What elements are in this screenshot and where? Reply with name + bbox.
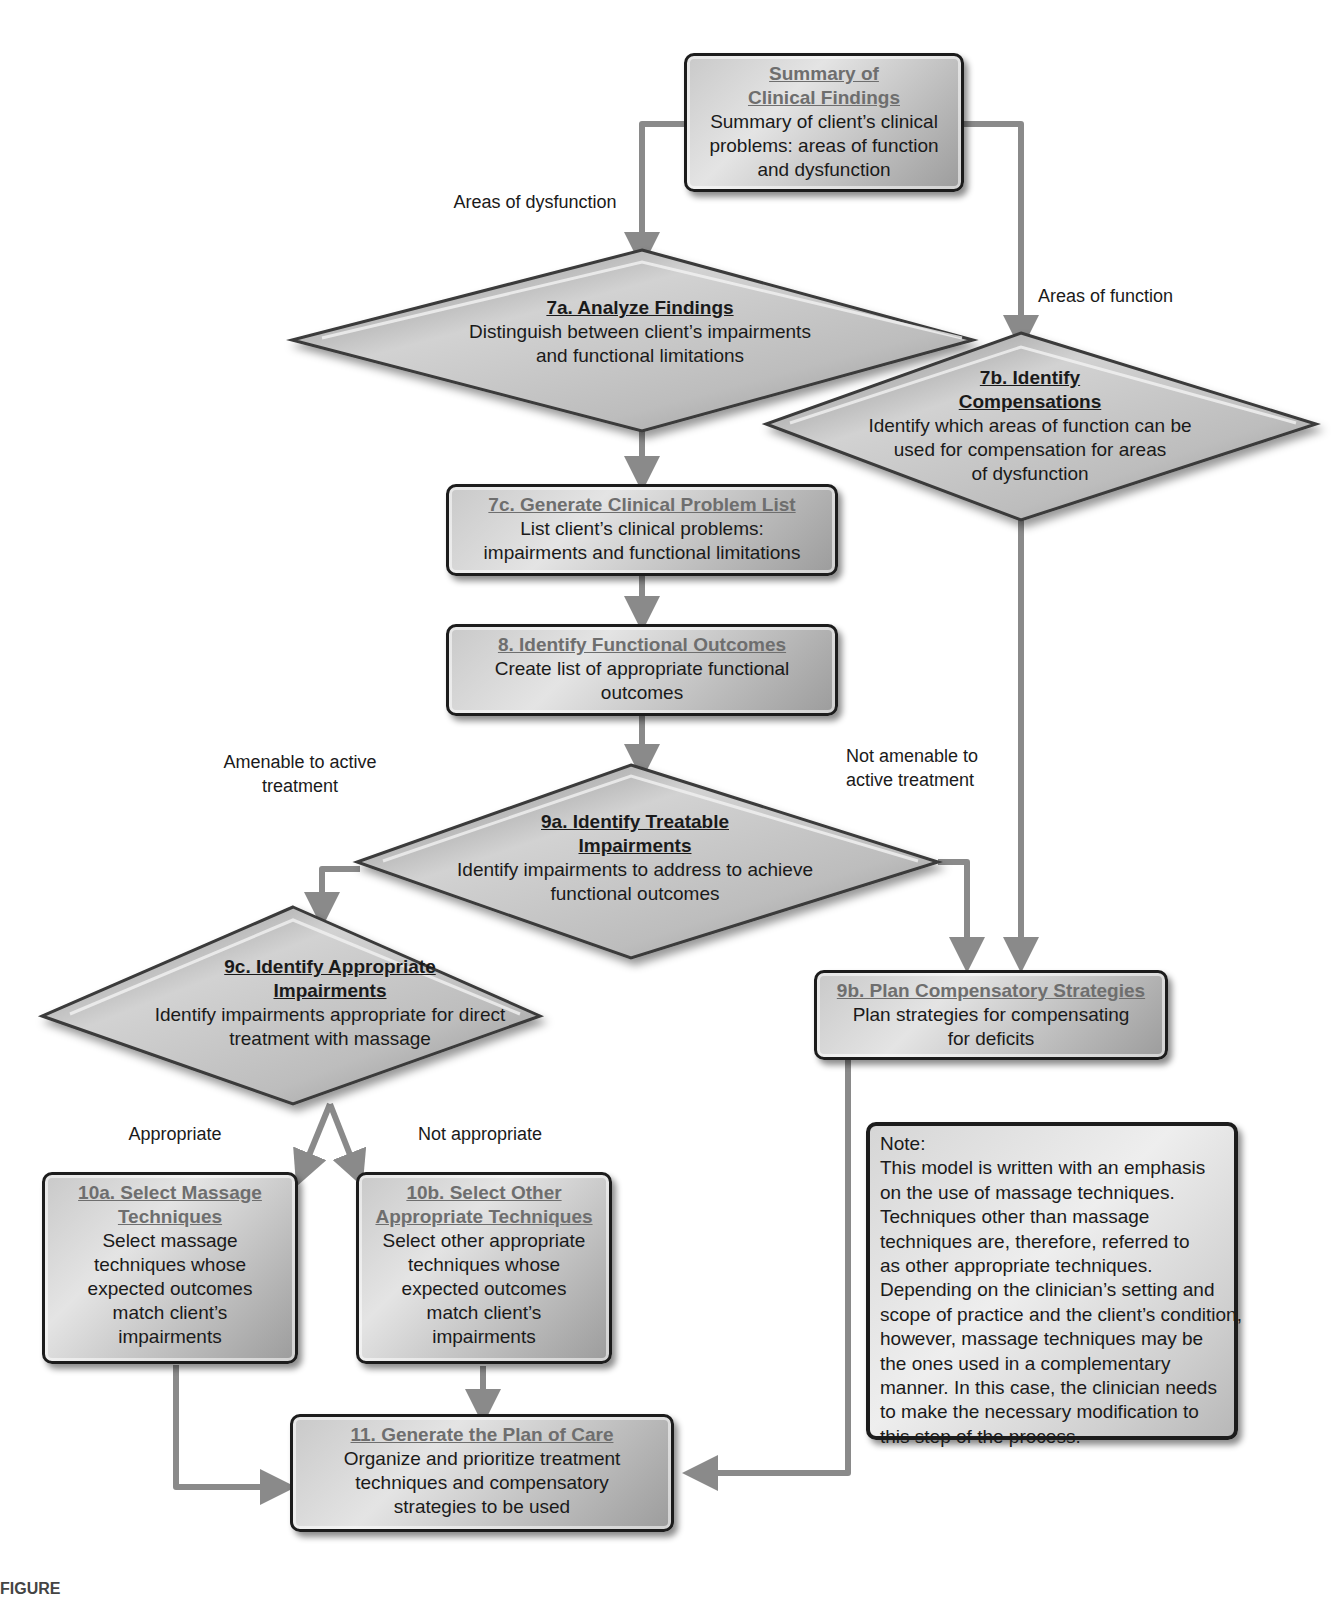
desc-line: Plan strategies for compensating [825, 1003, 1157, 1027]
note-line: scope of practice and the client’s condi… [880, 1303, 1224, 1327]
desc-line: impairments [53, 1325, 287, 1349]
node-7b-identify-compensations[interactable]: 7b. Identify Compensations Identify whic… [830, 366, 1230, 486]
connector-9a-to-9c [322, 869, 360, 910]
note-line: however, massage techniques may be [880, 1327, 1224, 1351]
desc-line: match client’s [53, 1301, 287, 1325]
connector-9c-to-10a [303, 1104, 330, 1170]
node-7a-analyze-findings[interactable]: 7a. Analyze Findings Distinguish between… [420, 296, 860, 368]
node-9c-identify-appropriate-impairments[interactable]: 9c. Identify Appropriate Impairments Ide… [110, 955, 550, 1051]
label-line: Not amenable to [846, 744, 1002, 768]
node-description: Identify which areas of function can be … [830, 414, 1230, 486]
note-line: Depending on the clinician’s setting and [880, 1278, 1224, 1302]
title-line: Clinical Findings [695, 86, 953, 110]
node-10a-select-massage-techniques[interactable]: 10a. Select Massage Techniques Select ma… [42, 1172, 298, 1364]
node-description: Create list of appropriate functional ou… [457, 657, 827, 705]
desc-line: techniques whose [53, 1253, 287, 1277]
edge-label-not-amenable-to-active-treatment: Not amenable to active treatment [846, 744, 1002, 792]
title-line: Appropriate Techniques [367, 1205, 601, 1229]
node-title: Summary of Clinical Findings [695, 62, 953, 110]
desc-line: techniques whose [367, 1253, 601, 1277]
node-description: Select massage techniques whose expected… [53, 1229, 287, 1349]
title-line: 9a. Identify Treatable [420, 810, 850, 834]
node-9b-plan-compensatory-strategies[interactable]: 9b. Plan Compensatory Strategies Plan st… [814, 970, 1168, 1060]
note-line: manner. In this case, the clinician need… [880, 1376, 1224, 1400]
desc-line: expected outcomes [367, 1277, 601, 1301]
node-title: 10b. Select Other Appropriate Techniques [367, 1181, 601, 1229]
note-line: Techniques other than massage [880, 1205, 1224, 1229]
note-line: This model is written with an emphasis [880, 1156, 1224, 1180]
node-title: 8. Identify Functional Outcomes [457, 633, 827, 657]
desc-line: Organize and prioritize treatment [301, 1447, 663, 1471]
desc-line: outcomes [457, 681, 827, 705]
title-line: Techniques [53, 1205, 287, 1229]
edge-label-appropriate: Appropriate [110, 1122, 240, 1146]
node-description: Summary of client’s clinical problems: a… [695, 110, 953, 182]
note-line: the ones used in a complementary [880, 1352, 1224, 1376]
node-description: Organize and prioritize treatment techni… [301, 1447, 663, 1519]
connector-9a-to-9b [938, 862, 967, 955]
desc-line: List client’s clinical problems: [457, 517, 827, 541]
desc-line: used for compensation for areas [830, 438, 1230, 462]
desc-line: Select other appropriate [367, 1229, 601, 1253]
node-description: Identify impairments to address to achie… [420, 858, 850, 906]
node-title: 11. Generate the Plan of Care [301, 1423, 663, 1447]
connector-10a-to-11 [176, 1365, 278, 1487]
edge-label-areas-of-dysfunction: Areas of dysfunction [440, 190, 630, 214]
desc-line: problems: areas of function [695, 134, 953, 158]
desc-line: techniques and compensatory [301, 1471, 663, 1495]
desc-line: Select massage [53, 1229, 287, 1253]
desc-line: strategies to be used [301, 1495, 663, 1519]
desc-line: impairments [367, 1325, 601, 1349]
connector-9c-to-10b [330, 1104, 356, 1170]
desc-line: Distinguish between client’s impairments [420, 320, 860, 344]
note-line: as other appropriate techniques. [880, 1254, 1224, 1278]
node-title: 10a. Select Massage Techniques [53, 1181, 287, 1229]
label-line: Amenable to active [200, 750, 400, 774]
title-line: Impairments [110, 979, 550, 1003]
node-9a-identify-treatable-impairments[interactable]: 9a. Identify Treatable Impairments Ident… [420, 810, 850, 906]
title-line: 10a. Select Massage [53, 1181, 287, 1205]
node-title: 9b. Plan Compensatory Strategies [825, 979, 1157, 1003]
edge-label-areas-of-function: Areas of function [1038, 284, 1198, 308]
node-title: 7b. Identify Compensations [830, 366, 1230, 414]
edge-label-not-appropriate: Not appropriate [400, 1122, 560, 1146]
desc-line: for deficits [825, 1027, 1157, 1051]
edge-label-amenable-to-active-treatment: Amenable to active treatment [200, 750, 400, 798]
note-line: on the use of massage techniques. [880, 1181, 1224, 1205]
node-description: Identify impairments appropriate for dir… [110, 1003, 550, 1051]
desc-line: Identify impairments appropriate for dir… [110, 1003, 550, 1027]
note-heading: Note: [880, 1132, 1224, 1156]
node-summary-of-clinical-findings[interactable]: Summary of Clinical Findings Summary of … [684, 53, 964, 192]
desc-line: treatment with massage [110, 1027, 550, 1051]
note-line: to make the necessary modification to [880, 1400, 1224, 1424]
title-line: Impairments [420, 834, 850, 858]
node-description: Plan strategies for compensating for def… [825, 1003, 1157, 1051]
desc-line: and dysfunction [695, 158, 953, 182]
node-title: 9c. Identify Appropriate Impairments [110, 955, 550, 1003]
title-line: 10b. Select Other [367, 1181, 601, 1205]
node-title: 7c. Generate Clinical Problem List [457, 493, 827, 517]
desc-line: functional outcomes [420, 882, 850, 906]
desc-line: impairments and functional limitations [457, 541, 827, 565]
note-box: Note: This model is written with an emph… [866, 1122, 1238, 1440]
desc-line: of dysfunction [830, 462, 1230, 486]
node-title: 9a. Identify Treatable Impairments [420, 810, 850, 858]
connector-summary-to-7b [962, 124, 1021, 333]
connector-9b-to-11 [700, 1058, 848, 1473]
desc-line: and functional limitations [420, 344, 860, 368]
node-description: List client’s clinical problems: impairm… [457, 517, 827, 565]
node-11-generate-plan-of-care[interactable]: 11. Generate the Plan of Care Organize a… [290, 1414, 674, 1532]
desc-line: Identify which areas of function can be [830, 414, 1230, 438]
desc-line: expected outcomes [53, 1277, 287, 1301]
node-7c-generate-clinical-problem-list[interactable]: 7c. Generate Clinical Problem List List … [446, 484, 838, 576]
title-line: 7b. Identify [830, 366, 1230, 390]
label-line: treatment [200, 774, 400, 798]
node-10b-select-other-appropriate-techniques[interactable]: 10b. Select Other Appropriate Techniques… [356, 1172, 612, 1364]
node-8-identify-functional-outcomes[interactable]: 8. Identify Functional Outcomes Create l… [446, 624, 838, 716]
desc-line: match client’s [367, 1301, 601, 1325]
note-line: techniques are, therefore, referred to [880, 1230, 1224, 1254]
label-line: active treatment [846, 768, 1002, 792]
desc-line: Create list of appropriate functional [457, 657, 827, 681]
note-line: this step of the process. [880, 1425, 1224, 1449]
